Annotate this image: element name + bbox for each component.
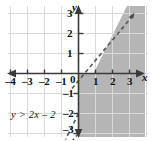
y-tick-label-1: 1 <box>67 48 72 59</box>
y-tick-label--2: –2 <box>63 108 73 119</box>
y-tick-label--1: –1 <box>63 88 73 99</box>
x-tick-label-3: 3 <box>127 76 132 87</box>
inequality-annotation: y > 2x – 2 <box>11 110 56 121</box>
x-tick-label--1: –1 <box>56 76 66 87</box>
origin-label: 0 <box>70 74 75 85</box>
x-tick-label--2: –2 <box>39 76 49 87</box>
x-tick-label--3: –3 <box>22 76 32 87</box>
x-tick-label--4: –4 <box>5 76 15 87</box>
y-tick-label-3: 3 <box>67 8 72 19</box>
x-tick-label-1: 1 <box>93 76 98 87</box>
y-tick-label--3: –3 <box>63 124 73 135</box>
x-tick-label-2: 2 <box>110 76 115 87</box>
y-axis-label: y <box>72 2 77 13</box>
x-axis-label: x <box>142 72 148 83</box>
inequality-graph-figure: y x 0 –4 –3 –2 –1 1 2 3 3 2 1 –1 –2 –3 y… <box>0 0 153 141</box>
y-tick-label-2: 2 <box>67 28 72 39</box>
